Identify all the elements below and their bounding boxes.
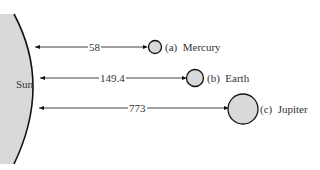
earth-name: Earth bbox=[225, 72, 249, 84]
diagram-canvas bbox=[0, 0, 320, 170]
mercury-circle bbox=[149, 41, 162, 54]
earth-letter: (b) bbox=[207, 72, 220, 84]
mercury-name: Mercury bbox=[183, 41, 221, 53]
mercury-distance: 58 bbox=[88, 42, 101, 53]
earth-label: (b) Earth bbox=[207, 73, 249, 84]
earth-distance: 149.4 bbox=[99, 73, 126, 84]
jupiter-name: Jupiter bbox=[278, 103, 308, 115]
mercury-letter: (a) bbox=[165, 41, 177, 53]
earth-circle bbox=[187, 70, 204, 87]
jupiter-circle bbox=[228, 94, 258, 124]
jupiter-distance: 773 bbox=[128, 103, 147, 114]
jupiter-letter: (c) bbox=[260, 103, 272, 115]
mercury-label: (a) Mercury bbox=[165, 42, 221, 53]
jupiter-label: (c) Jupiter bbox=[260, 104, 308, 115]
sun-label: Sun bbox=[16, 79, 33, 90]
